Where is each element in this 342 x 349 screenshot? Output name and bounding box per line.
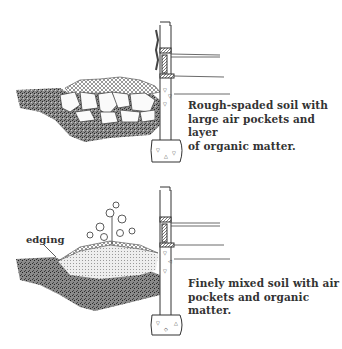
svg-text:▽: ▽ [168,93,172,99]
svg-text:△: △ [164,153,168,159]
caption-line: large air pockets and layer [188,113,342,140]
caption-line: of organic matter. [188,140,342,154]
caption-bottom: Finely mixed soil with air pockets and o… [188,277,342,318]
caption-line: Finely mixed soil with air [188,277,342,291]
svg-text:▽: ▽ [172,150,176,156]
svg-text:△: △ [174,320,178,326]
caption-line: Rough-spaded soil with [188,99,342,113]
caption-top: Rough-spaded soil with large air pockets… [188,99,342,153]
svg-text:◁: ◁ [168,258,172,264]
panel-finely-mixed-soil: ▽◁▽ ▽◇△ edging Finely mixed soil with ai… [0,175,342,349]
svg-text:▽: ▽ [156,320,160,326]
plant [87,202,135,245]
fine-soil-illustration: ▽◁▽ ▽◇△ [0,175,342,349]
fine-soil [58,245,158,279]
label-edging: edging [26,234,64,245]
svg-text:▽: ▽ [156,147,160,153]
svg-text:◇: ◇ [164,326,168,332]
edging-leader [44,245,56,257]
panel-rough-spaded-soil: ▽▽▽ ▽△▽ Rough-spaded soil with large air… [0,0,342,175]
svg-text:▽: ▽ [163,250,167,256]
svg-text:▽: ▽ [163,87,167,93]
svg-text:▽: ▽ [163,268,167,274]
caption-line: pockets and organic matter. [188,291,342,318]
svg-text:▽: ▽ [163,101,167,107]
